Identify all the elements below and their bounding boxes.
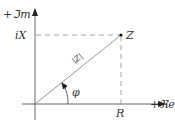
- magnitude-label: |Z|: [70, 52, 84, 66]
- angle-label: φ: [72, 86, 80, 99]
- angle-arc: [62, 83, 68, 104]
- phasor-diagram: +ℑm +ℜe iX R Z |Z| φ: [0, 0, 175, 126]
- real-projection-label: R: [115, 107, 124, 120]
- real-axis-label: +ℜe: [150, 98, 175, 111]
- point-z-label: Z: [125, 29, 134, 42]
- imag-axis-label: +ℑm: [3, 8, 31, 21]
- point-z: [119, 33, 122, 36]
- imag-projection-label: iX: [15, 29, 28, 42]
